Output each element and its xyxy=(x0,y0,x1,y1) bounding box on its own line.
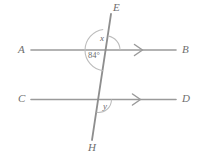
point-label-a: A xyxy=(18,44,25,55)
angle-label-84: 84° xyxy=(88,51,100,60)
geometry-canvas xyxy=(0,0,203,159)
point-label-d: D xyxy=(182,93,190,104)
angle-label-x: x xyxy=(100,34,104,43)
geometry-figure: E A B C D H x 84° y xyxy=(0,0,203,159)
angle-x-arc xyxy=(108,36,120,50)
parallel-markers-group xyxy=(133,45,143,106)
point-label-h: H xyxy=(88,142,96,153)
point-label-c: C xyxy=(18,93,25,104)
point-label-e: E xyxy=(113,2,120,13)
angle-label-y: y xyxy=(103,102,107,111)
point-label-b: B xyxy=(182,44,189,55)
